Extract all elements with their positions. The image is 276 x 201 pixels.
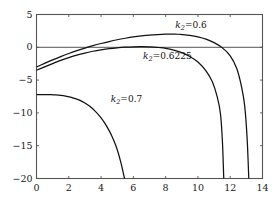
chart-figure: 50−5−10−15−20 02468101214 k2=0.6 k2=0.62… — [0, 0, 275, 201]
curve-label-k2-0-6: k2=0.6 — [175, 21, 206, 30]
x-tick-label: 6 — [119, 183, 147, 193]
y-tick-label: 0 — [26, 42, 32, 52]
y-tick-label: −15 — [12, 141, 32, 151]
curve-label-k2-0-6225: k2=0.6225 — [143, 52, 192, 61]
y-tick-label: −10 — [12, 108, 32, 118]
axis-ticks — [37, 15, 263, 179]
x-tick-label: 2 — [55, 183, 83, 193]
x-tick-label: 0 — [23, 183, 51, 193]
curve-2 — [37, 95, 125, 179]
x-tick-label: 12 — [216, 183, 244, 193]
axes-frame — [37, 15, 263, 179]
curve-label-k2-0-7: k2=0.7 — [111, 95, 142, 104]
y-tick-label: −5 — [18, 75, 32, 85]
curve-1 — [37, 47, 224, 179]
x-tick-label: 14 — [249, 183, 276, 193]
x-tick-label: 4 — [87, 183, 115, 193]
x-tick-label: 10 — [184, 183, 212, 193]
x-tick-label: 8 — [152, 183, 180, 193]
y-tick-label: 5 — [26, 10, 32, 20]
